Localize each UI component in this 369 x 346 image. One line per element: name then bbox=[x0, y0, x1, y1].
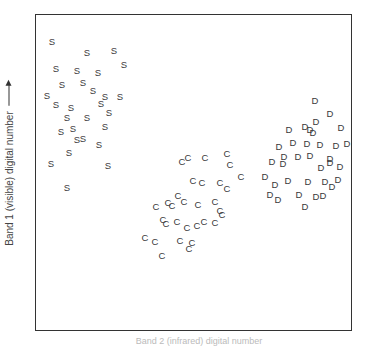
y-axis-label-text: Band 1 (visible) digital number bbox=[4, 111, 15, 246]
data-point-d: D bbox=[327, 158, 334, 168]
y-axis-label: Band 1 (visible) digital number bbox=[4, 84, 15, 246]
data-point-c: C bbox=[195, 200, 202, 210]
data-point-c: C bbox=[227, 160, 234, 170]
data-point-s: S bbox=[64, 113, 70, 123]
data-point-s: S bbox=[59, 80, 65, 90]
data-point-c: C bbox=[142, 233, 149, 243]
data-point-s: S bbox=[98, 99, 104, 109]
data-point-c: C bbox=[163, 219, 170, 229]
data-point-s: S bbox=[49, 37, 55, 47]
data-point-d: D bbox=[333, 141, 340, 151]
data-point-c: C bbox=[224, 149, 231, 159]
data-point-d: D bbox=[313, 117, 320, 127]
data-point-c: C bbox=[153, 202, 160, 212]
data-point-d: D bbox=[327, 109, 334, 119]
data-point-d: D bbox=[286, 125, 293, 135]
plot-frame bbox=[35, 14, 352, 331]
data-point-d: D bbox=[267, 190, 274, 200]
data-point-s: S bbox=[111, 46, 117, 56]
data-point-d: D bbox=[307, 125, 314, 135]
data-point-d: D bbox=[262, 172, 269, 182]
data-point-d: D bbox=[307, 151, 314, 161]
data-point-c: C bbox=[224, 184, 231, 194]
data-point-d: D bbox=[295, 152, 302, 162]
data-point-d: D bbox=[318, 163, 325, 173]
data-point-s: S bbox=[74, 135, 80, 145]
data-point-c: C bbox=[181, 197, 188, 207]
data-point-d: D bbox=[304, 139, 311, 149]
data-point-s: S bbox=[106, 108, 112, 118]
data-point-d: D bbox=[280, 159, 287, 169]
data-point-s: S bbox=[64, 183, 70, 193]
data-point-s: S bbox=[74, 66, 80, 76]
data-point-s: S bbox=[80, 78, 86, 88]
data-point-c: C bbox=[194, 221, 201, 231]
data-point-s: S bbox=[58, 127, 64, 137]
data-point-s: S bbox=[80, 134, 86, 144]
data-point-s: S bbox=[121, 60, 127, 70]
data-point-c: C bbox=[202, 153, 209, 163]
x-axis-label: Band 2 (infrared) digital number bbox=[136, 336, 263, 346]
arrow-up-icon bbox=[9, 84, 10, 106]
data-point-c: C bbox=[169, 201, 176, 211]
data-point-c: C bbox=[177, 236, 184, 246]
data-point-s: S bbox=[95, 68, 101, 78]
data-point-c: C bbox=[199, 178, 206, 188]
data-point-s: S bbox=[53, 100, 59, 110]
data-point-c: C bbox=[217, 178, 224, 188]
data-point-c: C bbox=[152, 237, 159, 247]
data-point-c: C bbox=[185, 153, 192, 163]
data-point-c: C bbox=[184, 223, 191, 233]
data-point-s: S bbox=[70, 124, 76, 134]
data-point-d: D bbox=[320, 191, 327, 201]
data-point-c: C bbox=[238, 172, 245, 182]
data-point-d: D bbox=[313, 192, 320, 202]
data-point-c: C bbox=[219, 210, 226, 220]
data-point-c: C bbox=[159, 251, 166, 261]
data-point-c: C bbox=[174, 217, 181, 227]
data-point-s: S bbox=[66, 148, 72, 158]
data-point-d: D bbox=[290, 138, 297, 148]
data-point-s: S bbox=[84, 113, 90, 123]
data-point-d: D bbox=[312, 96, 319, 106]
data-point-c: C bbox=[201, 217, 208, 227]
data-point-s: S bbox=[105, 161, 111, 171]
data-point-d: D bbox=[335, 175, 342, 185]
data-point-d: D bbox=[322, 177, 329, 187]
data-point-d: D bbox=[275, 195, 282, 205]
data-point-d: D bbox=[285, 176, 292, 186]
data-point-s: S bbox=[48, 159, 54, 169]
data-point-d: D bbox=[337, 162, 344, 172]
data-point-c: C bbox=[190, 176, 197, 186]
data-point-d: D bbox=[338, 123, 345, 133]
data-point-s: S bbox=[53, 64, 59, 74]
data-point-c: C bbox=[212, 218, 219, 228]
data-point-d: D bbox=[344, 139, 351, 149]
data-point-s: S bbox=[90, 86, 96, 96]
data-point-d: D bbox=[305, 177, 312, 187]
data-point-s: S bbox=[44, 91, 50, 101]
data-point-s: S bbox=[117, 92, 123, 102]
data-point-d: D bbox=[269, 157, 276, 167]
data-point-s: S bbox=[102, 122, 108, 132]
data-point-d: D bbox=[302, 202, 309, 212]
data-point-s: S bbox=[96, 140, 102, 150]
data-point-c: C bbox=[186, 244, 193, 254]
data-point-d: D bbox=[296, 190, 303, 200]
data-point-d: D bbox=[317, 140, 324, 150]
data-point-s: S bbox=[84, 48, 90, 58]
